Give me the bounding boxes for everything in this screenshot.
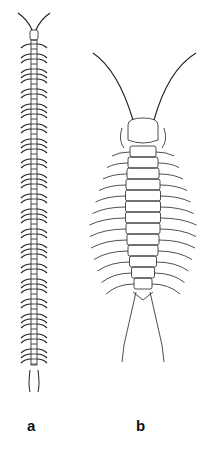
specimen-b-drawing <box>90 53 197 362</box>
figure-canvas <box>0 0 213 453</box>
panel-label-b: b <box>136 417 145 434</box>
panel-label-a: a <box>27 417 35 434</box>
specimen-a-drawing <box>18 13 50 392</box>
